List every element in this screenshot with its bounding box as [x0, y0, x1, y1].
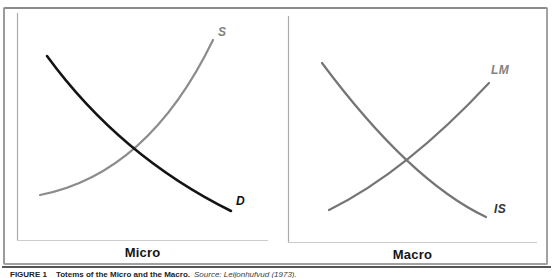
figure-number-label: FIGURE 1 [10, 270, 47, 278]
caption-rule [2, 266, 551, 268]
supply-curve-label: S [218, 26, 226, 38]
is-curve-label: IS [494, 203, 506, 215]
figure-page: S D LM IS Micro Macro FIGURE 1Totems of … [0, 0, 554, 278]
figure-caption: FIGURE 1Totems of the Micro and the Macr… [10, 270, 550, 278]
figure-title: Totems of the Micro and the Macro. [56, 270, 190, 278]
macro-panel-title: Macro [288, 247, 537, 262]
figure-frame [3, 7, 548, 265]
demand-curve-label: D [236, 195, 245, 207]
lm-curve-label: LM [491, 64, 509, 76]
figure-source: Source: Leijonhufvud (1973). [194, 270, 297, 278]
micro-panel-title: Micro [17, 245, 268, 260]
